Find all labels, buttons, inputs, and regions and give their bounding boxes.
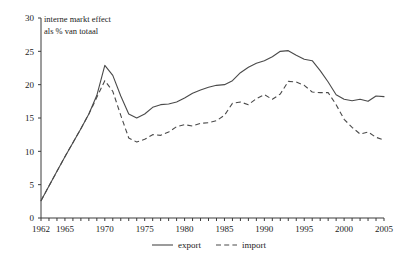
y-tick-label: 25	[25, 47, 35, 57]
legend-label-import: import	[242, 240, 266, 250]
y-tick-label: 0	[30, 213, 35, 223]
x-axis-tick-labels: 1962196519701975198019851990199520002005	[32, 224, 394, 234]
x-tick-label: 1985	[215, 224, 234, 234]
x-tick-label: 1995	[295, 224, 314, 234]
x-tick-label: 1975	[136, 224, 155, 234]
legend-label-export: export	[178, 240, 201, 250]
y-tick-label: 15	[25, 113, 35, 123]
x-tick-label: 1962	[32, 224, 50, 234]
y-tick-label: 20	[25, 80, 35, 90]
x-tick-label: 1965	[56, 224, 75, 234]
x-tick-label: 1980	[176, 224, 195, 234]
chart-title: interne markt effect	[44, 14, 112, 24]
y-axis-tick-labels: 051015202530	[25, 13, 35, 223]
y-tick-label: 5	[30, 180, 35, 190]
x-tick-label: 2000	[335, 224, 354, 234]
chart-subtitle: als % van totaal	[44, 26, 99, 36]
chart-container: 051015202530 196219651970197519801985199…	[0, 0, 396, 262]
x-tick-label: 2005	[375, 224, 394, 234]
x-tick-label: 1990	[255, 224, 274, 234]
chart-legend: export import	[152, 240, 266, 250]
x-tick-label: 1970	[96, 224, 115, 234]
series-line-import	[41, 81, 384, 201]
line-chart: 051015202530 196219651970197519801985199…	[0, 0, 396, 262]
series-line-export	[41, 51, 384, 201]
y-tick-label: 10	[25, 147, 35, 157]
y-tick-label: 30	[25, 13, 35, 23]
